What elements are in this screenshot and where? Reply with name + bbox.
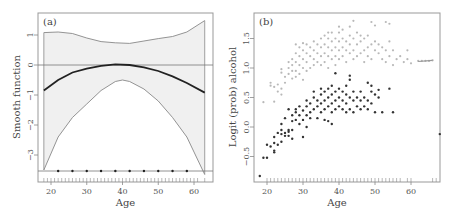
- data-point-dark: [363, 96, 365, 98]
- data-point-light: [399, 55, 401, 57]
- y-tick-label: 0: [26, 62, 35, 67]
- data-point-light: [277, 91, 279, 93]
- y-tick-label: −2: [26, 119, 35, 131]
- data-point-light: [352, 58, 354, 60]
- data-point-light: [270, 85, 272, 87]
- data-point-light: [313, 64, 315, 66]
- data-point-dark: [331, 85, 333, 87]
- data-point-dark: [266, 144, 268, 146]
- panel-b-logit-scatter: 1.51.00.50.0−0.52030405060AgeLogit (prob…: [227, 13, 441, 208]
- data-point-dark: [320, 87, 322, 89]
- data-point-light: [316, 52, 318, 54]
- data-point-light: [334, 64, 336, 66]
- data-point-dark: [302, 136, 304, 138]
- data-point-dark: [374, 111, 376, 113]
- x-tick-label: 30: [82, 187, 92, 196]
- panel-label: (b): [259, 16, 273, 27]
- data-point-light: [349, 52, 351, 54]
- data-point-dark: [323, 119, 325, 121]
- data-point-light: [309, 55, 311, 57]
- x-tick-label: 60: [406, 187, 416, 196]
- data-point-light: [298, 73, 300, 75]
- data-point-light: [320, 46, 322, 48]
- data-point-dark: [323, 90, 325, 92]
- data-point-dark: [338, 87, 340, 89]
- data-point-light: [327, 31, 329, 33]
- data-point-dark: [305, 105, 307, 107]
- x-tick-label: 40: [334, 187, 344, 196]
- data-point-dark: [345, 102, 347, 104]
- knot-marker: [143, 170, 145, 172]
- data-point-light: [338, 58, 340, 60]
- data-point-dark: [295, 111, 297, 113]
- data-point-light: [298, 64, 300, 66]
- y-tick-label: −3: [26, 149, 35, 161]
- data-point-dark: [370, 85, 372, 87]
- data-point-dark: [309, 117, 311, 119]
- data-point-dark: [323, 108, 325, 110]
- data-point-light: [338, 49, 340, 51]
- data-point-light: [345, 40, 347, 42]
- data-point-light: [410, 62, 412, 64]
- data-point-dark: [327, 96, 329, 98]
- data-point-light: [367, 55, 369, 57]
- y-axis-title: Smooth function: [11, 55, 22, 139]
- data-point-light: [360, 34, 362, 36]
- data-point-dark: [334, 108, 336, 110]
- data-point-dark: [320, 111, 322, 113]
- data-point-dark: [309, 102, 311, 104]
- data-point-light: [288, 73, 290, 75]
- data-point-light: [295, 70, 297, 72]
- data-point-light: [324, 43, 326, 45]
- data-point-dark: [316, 117, 318, 119]
- data-point-dark: [352, 111, 354, 113]
- data-point-dark: [392, 111, 394, 113]
- data-point-dark: [367, 99, 369, 101]
- data-point-light: [302, 58, 304, 60]
- data-point-dark: [280, 141, 282, 143]
- x-tick-label: 30: [298, 187, 308, 196]
- data-point-dark: [291, 120, 293, 122]
- data-point-light: [374, 24, 376, 26]
- data-point-dark: [439, 133, 441, 135]
- data-point-light: [302, 79, 304, 81]
- data-point-light: [334, 55, 336, 57]
- data-point-dark: [331, 123, 333, 125]
- data-point-dark: [356, 96, 358, 98]
- data-point-light: [306, 61, 308, 63]
- data-point-light: [345, 49, 347, 51]
- knot-marker: [100, 170, 102, 172]
- data-point-light: [284, 76, 286, 78]
- data-point-light: [338, 31, 340, 33]
- data-point-dark: [320, 93, 322, 95]
- data-point-light: [388, 23, 390, 25]
- data-point-light: [367, 46, 369, 48]
- data-point-dark: [309, 111, 311, 113]
- data-point-dark: [316, 99, 318, 101]
- data-point-light: [320, 55, 322, 57]
- data-point-light: [352, 37, 354, 39]
- y-tick-label: −0.5: [242, 147, 251, 166]
- knot-marker: [157, 170, 159, 172]
- data-point-dark: [363, 105, 365, 107]
- data-point-dark: [313, 96, 315, 98]
- data-point-dark: [367, 108, 369, 110]
- data-point-dark: [273, 136, 275, 138]
- data-point-dark: [338, 96, 340, 98]
- knot-marker: [186, 170, 188, 172]
- y-tick-label: 0.0: [242, 121, 251, 134]
- x-tick-label: 60: [189, 187, 199, 196]
- data-point-dark: [331, 102, 333, 104]
- data-point-dark: [327, 105, 329, 107]
- fitted-line-segment: [418, 60, 432, 61]
- data-point-dark: [291, 129, 293, 131]
- data-point-dark: [345, 85, 347, 87]
- data-point-dark: [356, 105, 358, 107]
- data-point-dark: [349, 96, 351, 98]
- x-tick-label: 40: [117, 187, 127, 196]
- data-point-dark: [370, 102, 372, 104]
- data-point-light: [298, 55, 300, 57]
- data-point-light: [370, 43, 372, 45]
- data-point-light: [392, 49, 394, 51]
- data-point-light: [396, 58, 398, 60]
